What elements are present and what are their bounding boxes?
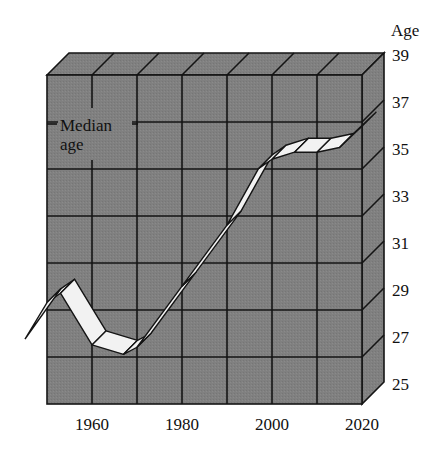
x-tick-label: 2000: [255, 415, 289, 434]
y-tick-label: 33: [392, 187, 409, 206]
median-age-annotation: Median age: [47, 108, 138, 160]
median-age-chart: Median age Age 2527293133353739 19601980…: [0, 0, 446, 454]
box-side-face: [362, 53, 384, 404]
x-tick-label: 1980: [165, 415, 199, 434]
y-tick-label: 25: [392, 375, 409, 394]
y-axis-ticks: 2527293133353739: [392, 46, 410, 394]
y-tick-label: 29: [392, 281, 409, 300]
x-tick-label: 1960: [75, 415, 109, 434]
x-tick-label: 2020: [345, 415, 379, 434]
annotation-line1: Median: [60, 116, 112, 135]
annotation-line2: age: [60, 135, 84, 154]
y-tick-label: 35: [392, 140, 409, 159]
x-axis-ticks: 1960198020002020: [75, 415, 379, 434]
y-tick-label: 39: [392, 46, 409, 65]
y-tick-label: 37: [392, 93, 410, 112]
y-tick-label: 27: [392, 328, 410, 347]
y-tick-label: 31: [392, 234, 409, 253]
y-axis-title: Age: [391, 21, 419, 40]
box-top-face: [47, 53, 384, 75]
